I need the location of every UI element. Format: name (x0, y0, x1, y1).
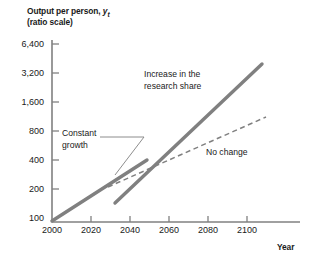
axes (52, 40, 300, 222)
series-line-constant-growth (52, 160, 147, 221)
series-line-increase-research-share (115, 64, 262, 203)
y-axis-ticks (52, 44, 59, 189)
leader-line-constant-growth (100, 137, 144, 175)
series-line-no-change (108, 117, 266, 187)
chart-figure: Output per person, yt (ratio scale) 6,40… (0, 0, 314, 260)
plot-area (0, 0, 314, 260)
x-axis-ticks (91, 216, 247, 222)
